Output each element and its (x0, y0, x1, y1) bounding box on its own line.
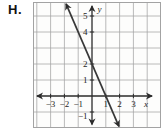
x-tick-label: 2 (117, 99, 122, 109)
figure-label: H. (8, 2, 22, 17)
x-tick-label: −1 (73, 99, 83, 109)
x-axis-label: x (143, 99, 148, 109)
y-tick-label: 4 (83, 27, 88, 37)
worksheet-figure: H. −3−2−11235421−1xy (0, 0, 164, 131)
y-axis-label: y (97, 4, 102, 14)
coordinate-grid-graph: −3−2−11235421−1xy (33, 2, 161, 128)
y-tick-label: 2 (83, 59, 88, 69)
x-tick-label: −3 (46, 99, 56, 109)
y-tick-label: 5 (83, 11, 88, 21)
x-tick-label: −2 (60, 99, 70, 109)
y-tick-label: −1 (78, 111, 88, 121)
x-tick-label: 1 (104, 99, 109, 109)
x-tick-label: 3 (131, 99, 136, 109)
y-tick-label: 1 (83, 75, 88, 85)
